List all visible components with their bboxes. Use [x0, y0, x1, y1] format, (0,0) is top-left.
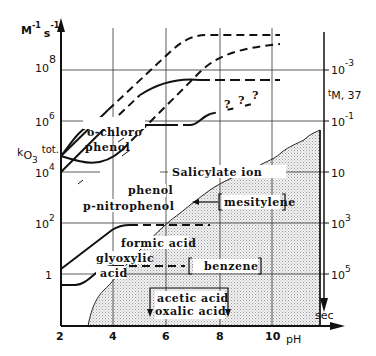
label-question-1: ?	[224, 98, 231, 111]
label-mesitylene: mesitylene	[224, 196, 296, 209]
ozone-rate-chart: o-chloro phenol Salicylate ion phenol p-…	[0, 0, 376, 356]
y-tick-10-8: 108	[35, 53, 56, 75]
label-question-2: ?	[238, 94, 245, 107]
label-o-chloro: o-chloro	[87, 126, 142, 139]
label-p-nitrophenol: p-nitrophenol	[83, 200, 174, 213]
x-tick-4: 4	[109, 330, 117, 343]
label-question-3: ?	[252, 89, 259, 102]
right-axis-label: tM, 37	[328, 89, 362, 102]
y-tick-10-6: 106	[35, 111, 55, 129]
label-formic-acid: formic acid	[121, 237, 196, 250]
label-glyoxylic-acid: acid	[100, 267, 128, 280]
label-acetic-acid: acetic acid	[157, 292, 229, 305]
label-benzene: benzene	[204, 260, 258, 273]
curve-salicylate-question	[210, 104, 252, 114]
yr-tick-10: 10	[331, 167, 345, 180]
curve-salicylate-solid2	[190, 114, 210, 125]
yr-tick-10-neg3: 10-3	[331, 58, 354, 77]
label-oxalic-acid: oxalic acid	[155, 305, 226, 318]
y-tick-1: 1	[45, 269, 52, 282]
x-tick-6: 6	[162, 330, 170, 343]
y-tick-10-2: 102	[35, 213, 55, 231]
right-unit-sec: sec	[315, 309, 334, 322]
y-tick-10-4: 104	[35, 162, 55, 180]
label-o-chloro-phenol: phenol	[85, 141, 130, 154]
left-unit-m: M-1s-1	[21, 21, 60, 40]
label-phenol: phenol	[128, 184, 173, 197]
yr-tick-10-neg1: 10-1	[331, 111, 354, 129]
label-glyoxylic: glyoxylic	[96, 252, 154, 265]
x-axis-label: pH	[286, 333, 301, 346]
x-tick-2: 2	[56, 330, 64, 343]
x-tick-10: 10	[265, 330, 281, 343]
yr-tick-10-5: 105	[331, 264, 351, 282]
label-salicylate: Salicylate ion	[172, 166, 262, 179]
yr-tick-10-3: 103	[331, 213, 351, 231]
x-tick-8: 8	[216, 330, 224, 343]
